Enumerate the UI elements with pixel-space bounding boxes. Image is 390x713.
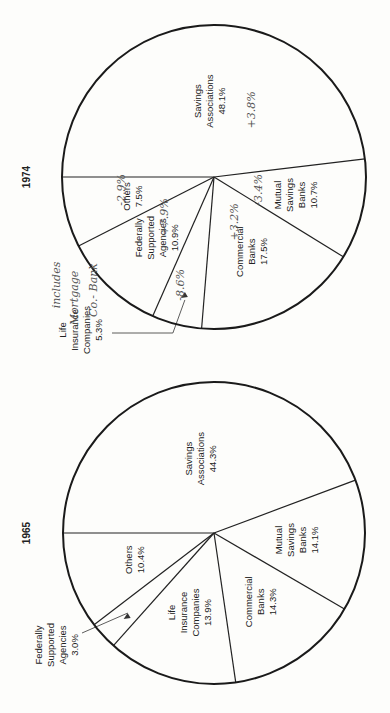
- slice-label-line: Agencies: [57, 625, 68, 664]
- slice-label-line: Banks: [255, 588, 266, 615]
- handwritten-annotation: +3.2%: [228, 203, 241, 240]
- slice-label-line: Others: [123, 545, 134, 574]
- slice-label: FederallySupportedAgencies10.9%: [133, 216, 180, 260]
- slice-label: MutualSavingsBanks14.1%: [273, 523, 320, 557]
- slice-label-line: Mutual: [273, 526, 284, 555]
- slice-label-line: 3.0%: [69, 634, 80, 656]
- pie-1974: SavingsAssociations48.1%MutualSavingsBan…: [21, 25, 366, 354]
- slice-label-line: 7.5%: [133, 185, 144, 207]
- slice-label-line: Associations: [195, 432, 206, 486]
- slice-label: MutualSavingsBanks10.7%: [272, 178, 319, 212]
- slice-label-line: 44.3%: [207, 445, 218, 472]
- slice-label-line: 10.4%: [135, 546, 146, 573]
- slice-label-line: Mutual: [272, 181, 283, 210]
- callout-arrow: [112, 300, 185, 333]
- slice-label-line: Federally: [133, 218, 144, 257]
- slice-label-line: Federally: [33, 625, 44, 664]
- chart-title: 1965: [21, 521, 32, 544]
- handwritten-annotation: Mortgage: [68, 270, 81, 326]
- slice-label-line: Insurance: [178, 592, 189, 634]
- slice-divider: [214, 159, 365, 177]
- slice-label-line: 5.3%: [93, 319, 104, 341]
- handwritten-annotation: +7.9%: [158, 198, 171, 235]
- handwritten-annotation: -3.4%: [252, 174, 265, 206]
- slice-label-line: Life: [166, 605, 177, 620]
- slice-label-line: 17.5%: [258, 238, 269, 265]
- handwritten-annotation: includes: [50, 261, 63, 308]
- chart-title: 1974: [21, 165, 32, 188]
- slice-label-line: Savings: [183, 442, 194, 476]
- slice-label-line: 10.7%: [308, 181, 319, 208]
- slice-label-line: 14.3%: [267, 588, 278, 615]
- slice-label-line: Associations: [204, 74, 215, 128]
- slice-label-line: Supported: [45, 623, 56, 667]
- pie-charts-figure: SavingsAssociations48.1%MutualSavingsBan…: [0, 0, 390, 713]
- slice-label-line: Supported: [145, 216, 156, 260]
- slice-label-line: 14.1%: [309, 526, 320, 553]
- slice-label-line: Life: [57, 322, 68, 337]
- handwritten-annotation: -8.6%: [174, 269, 187, 301]
- slice-label-line: Banks: [246, 238, 257, 265]
- slice-label: Others10.4%: [123, 545, 146, 574]
- pie-1965: SavingsAssociations44.3%MutualSavingsBan…: [21, 382, 365, 684]
- slice-label: SavingsAssociations48.1%: [192, 74, 227, 128]
- slice-label: CommercialBanks14.3%: [243, 576, 278, 627]
- slice-label: LifeInsuranceCompanies13.9%: [166, 588, 213, 636]
- slice-label-line: Banks: [297, 527, 308, 554]
- slice-label-line: Savings: [192, 84, 203, 118]
- slice-label-line: Companies: [190, 588, 201, 636]
- handwritten-annotation: -2.9%: [115, 174, 128, 206]
- handwritten-annotation: Co.- Bank: [87, 263, 100, 317]
- slice-label-line: Commercial: [243, 576, 254, 627]
- slice-label-line: 48.1%: [216, 87, 227, 114]
- slice-label-line: Banks: [296, 182, 307, 209]
- slice-label-external: FederallySupportedAgencies3.0%: [33, 623, 80, 667]
- handwritten-annotation: +3.8%: [245, 91, 258, 128]
- slice-label-line: Savings: [285, 523, 296, 557]
- slice-label: SavingsAssociations44.3%: [183, 432, 218, 486]
- slice-label-line: 13.9%: [202, 598, 213, 625]
- slice-label-line: Savings: [284, 178, 295, 212]
- slice-divider: [214, 533, 236, 682]
